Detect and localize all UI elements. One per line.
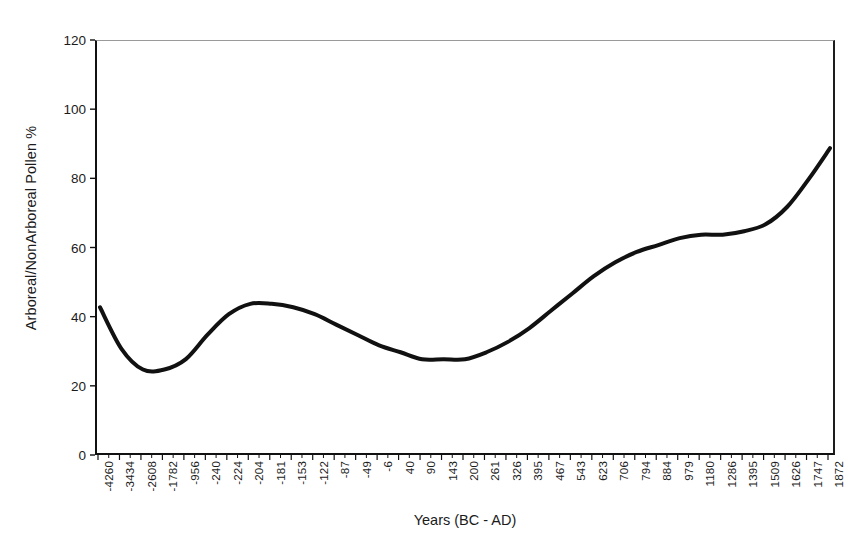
x-tick-label: 794: [640, 461, 652, 481]
x-tick-label: -122: [318, 461, 330, 485]
x-tick-label: -204: [253, 461, 265, 485]
x-tick-label-text: -87: [339, 461, 351, 478]
x-tick-label-text: 1286: [726, 461, 738, 487]
x-tick-label-text: 979: [683, 461, 695, 481]
x-tick-label-text: 794: [640, 461, 652, 481]
pollen-chart-figure: Arboreal/NonArboreal Pollen % 0204060801…: [0, 0, 864, 556]
x-tick-label-text: -204: [253, 461, 265, 485]
x-tick-label: 467: [554, 461, 566, 481]
x-axis-title: Years (BC - AD): [95, 512, 835, 528]
x-tick-label: 1180: [704, 461, 716, 487]
x-tick-label-text: 143: [447, 461, 459, 481]
x-tick-label-text: -1782: [167, 461, 179, 491]
x-tick-label-text: 1747: [812, 461, 824, 487]
x-tick-label: 326: [511, 461, 523, 481]
x-tick-label: 884: [661, 461, 673, 481]
x-tick-label: 1747: [812, 461, 824, 487]
x-tick-label: 1509: [769, 461, 781, 487]
x-tick-label-text: 706: [618, 461, 630, 481]
x-tick-label: 706: [618, 461, 630, 481]
x-tick-label: -153: [296, 461, 308, 485]
x-tick-label: -956: [189, 461, 201, 485]
x-tick-label-text: 884: [661, 461, 673, 481]
x-tick-label: -1782: [167, 461, 179, 491]
x-tick-label: 1286: [726, 461, 738, 487]
x-tick-label: -87: [339, 461, 351, 478]
x-tick-label: -224: [232, 461, 244, 485]
x-tick-label: 1395: [747, 461, 759, 487]
x-tick-label-text: -2608: [146, 461, 158, 491]
x-tick-label: 143: [447, 461, 459, 481]
x-tick-label: 1872: [833, 461, 845, 487]
x-tick-label: -3434: [124, 461, 136, 491]
x-tick-label-text: 543: [575, 461, 587, 481]
x-tick-label-text: 467: [554, 461, 566, 481]
x-tick-label-text: -224: [232, 461, 244, 485]
x-tick-label-text: 1872: [833, 461, 845, 487]
x-tick-label-text: 261: [489, 461, 501, 481]
x-tick-label: -4260: [103, 461, 115, 491]
x-tick-label: 40: [404, 461, 416, 474]
x-tick-label: -240: [210, 461, 222, 485]
x-tick-label: 623: [597, 461, 609, 481]
x-tick-label-text: 1395: [747, 461, 759, 487]
x-tick-label-text: -49: [361, 461, 373, 478]
x-tick-label-text: 326: [511, 461, 523, 481]
x-tick-label: -181: [275, 461, 287, 485]
x-tick-label: -6: [382, 461, 394, 472]
x-tick-label: -2608: [146, 461, 158, 491]
x-tick-label-text: -153: [296, 461, 308, 485]
x-tick-label: 90: [425, 461, 437, 474]
x-tick-label: -49: [361, 461, 373, 478]
x-tick-label-text: 200: [468, 461, 480, 481]
x-tick-label-text: 395: [532, 461, 544, 481]
x-tick-label-text: -181: [275, 461, 287, 485]
x-tick-label-text: 1626: [790, 461, 802, 487]
x-tick-label-text: -4260: [103, 461, 115, 491]
x-tick-label: 1626: [790, 461, 802, 487]
x-tick-label-text: -122: [318, 461, 330, 485]
x-tick-label: 543: [575, 461, 587, 481]
x-tick-label-text: -956: [189, 461, 201, 485]
x-tick-label-text: 1509: [769, 461, 781, 487]
x-axis-tick-labels: -4260-3434-2608-1782-956-240-224-204-181…: [0, 0, 864, 556]
x-tick-label-text: -6: [382, 461, 394, 472]
x-tick-label-text: 90: [425, 461, 437, 474]
x-tick-label: 261: [489, 461, 501, 481]
x-tick-label: 200: [468, 461, 480, 481]
x-tick-label-text: 1180: [704, 461, 716, 487]
x-tick-label-text: 40: [404, 461, 416, 474]
x-tick-label-text: -3434: [124, 461, 136, 491]
x-tick-label: 979: [683, 461, 695, 481]
x-tick-label-text: -240: [210, 461, 222, 485]
x-tick-label: 395: [532, 461, 544, 481]
x-tick-label-text: 623: [597, 461, 609, 481]
